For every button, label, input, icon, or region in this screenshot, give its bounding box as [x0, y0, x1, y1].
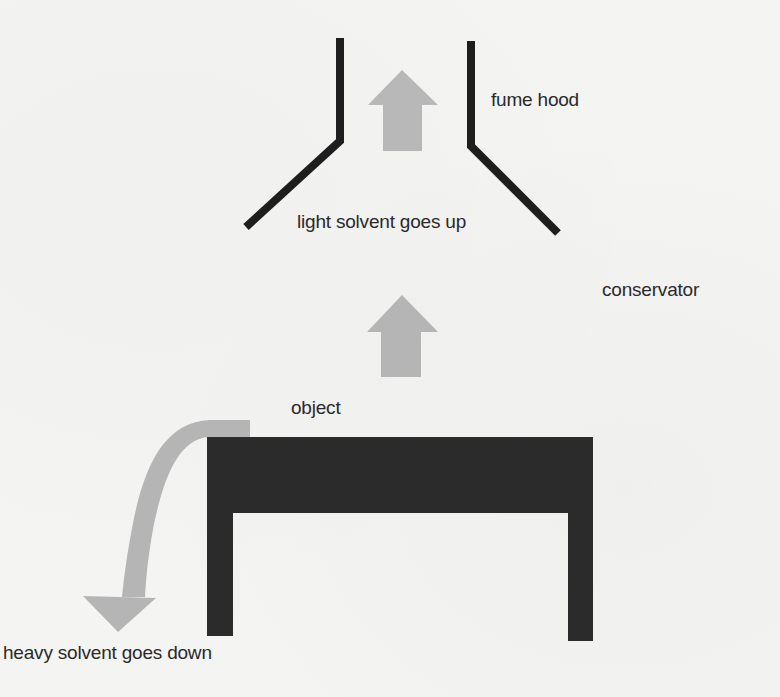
object-shape: [207, 437, 593, 641]
fume-hood-right-wall: [471, 41, 558, 233]
diagram-canvas: [0, 0, 780, 697]
heavy-solvent-label: heavy solvent goes down: [3, 643, 212, 662]
object-label: object: [291, 398, 341, 417]
fume-hood-label: fume hood: [491, 90, 579, 109]
light-solvent-label: light solvent goes up: [297, 212, 466, 231]
fume-hood-left-wall: [246, 38, 340, 227]
arrow-up-icon: [368, 70, 438, 151]
conservator-label: conservator: [602, 280, 699, 299]
arrow-up-icon: [367, 295, 438, 377]
